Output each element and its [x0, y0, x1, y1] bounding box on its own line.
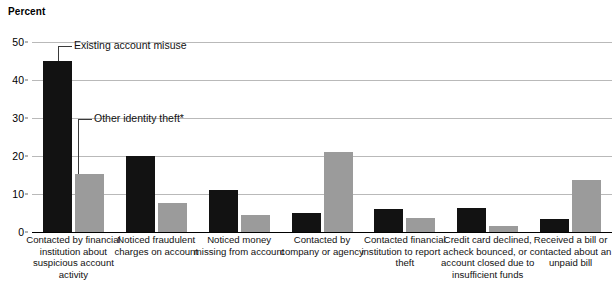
gridline-0: [32, 232, 612, 233]
y-tick-label-30: 30: [12, 113, 24, 124]
bar-group: [126, 42, 187, 232]
bar-group: [540, 42, 601, 232]
bar-group: [292, 42, 353, 232]
bar: [75, 174, 104, 232]
bar-group: [209, 42, 270, 232]
bar: [457, 208, 486, 232]
annotation-leader-horizontal: [58, 46, 72, 47]
bar: [292, 213, 321, 232]
bar: [158, 203, 187, 232]
y-tick-label-40: 40: [12, 75, 24, 86]
y-tick-label-50: 50: [12, 37, 24, 48]
y-tick-mark-10: [25, 194, 28, 195]
annotation-label: Other identity theft*: [94, 112, 184, 124]
x-axis-labels: Contacted by financial institution about…: [32, 234, 612, 294]
y-tick-label-20: 20: [12, 151, 24, 162]
plot-area: Existing account misuseOther identity th…: [32, 42, 612, 232]
bar: [126, 156, 155, 232]
y-tick-mark-20: [25, 156, 28, 157]
y-axis-title: Percent: [8, 6, 45, 17]
annotation-leader-horizontal: [78, 119, 92, 120]
bar: [489, 226, 518, 232]
annotation-leader-vertical: [78, 119, 79, 174]
annotation-leader-vertical: [58, 46, 59, 61]
bar-chart: Percent 01020304050 Existing account mis…: [0, 0, 616, 294]
y-tick-mark-40: [25, 80, 28, 81]
bar-group: [457, 42, 518, 232]
bar: [374, 209, 403, 232]
y-tick-mark-50: [25, 42, 28, 43]
y-axis-ticks: 01020304050: [0, 42, 28, 232]
annotation-label: Existing account misuse: [74, 39, 187, 51]
y-tick-label-0: 0: [18, 227, 24, 238]
bar: [43, 61, 72, 232]
bar-group: [43, 42, 104, 232]
x-axis-label: Received a bill or contacted about an un…: [522, 234, 616, 269]
y-tick-label-10: 10: [12, 189, 24, 200]
bar-group: [374, 42, 435, 232]
bar: [406, 218, 435, 232]
bar: [324, 152, 353, 232]
y-tick-mark-30: [25, 118, 28, 119]
bar: [209, 190, 238, 232]
bar: [540, 219, 569, 232]
bar: [572, 180, 601, 232]
y-tick-mark-0: [25, 232, 28, 233]
bar: [241, 215, 270, 232]
